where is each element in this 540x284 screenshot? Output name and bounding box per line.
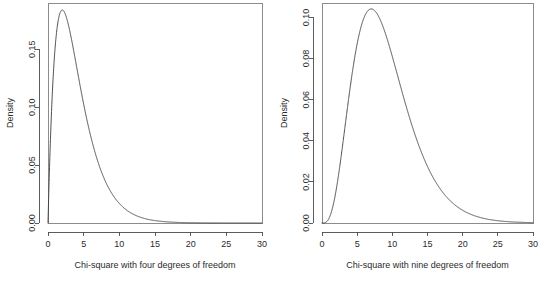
x-axis-tick-label: 0: [319, 239, 324, 249]
x-axis-tick-label: 20: [186, 239, 196, 249]
plot-area-df9: 0510152025300.000.020.040.060.080.10Chi-…: [270, 0, 540, 284]
y-axis-tick-label: 0.08: [301, 50, 311, 68]
x-axis-tick-label: 5: [355, 239, 360, 249]
panel-chi-square-df9: 0510152025300.000.020.040.060.080.10Chi-…: [270, 0, 540, 284]
x-axis-tick-label: 15: [150, 239, 160, 249]
plot-frame: [48, 3, 262, 223]
y-axis-tick-label: 0.05: [27, 156, 37, 174]
x-axis-tick-label: 30: [528, 239, 538, 249]
x-axis-tick-label: 10: [387, 239, 397, 249]
y-axis-title: Density: [279, 97, 289, 128]
plot-area-df4: 0510152025300.000.050.100.15Chi-square w…: [0, 0, 270, 284]
plot-frame: [322, 3, 533, 223]
density-curve: [322, 9, 533, 223]
panel-chi-square-df4: 0510152025300.000.050.100.15Chi-square w…: [0, 0, 270, 284]
y-axis-title: Density: [5, 97, 15, 128]
y-axis-tick-label: 0.02: [301, 173, 311, 191]
x-axis-title: Chi-square with four degrees of freedom: [74, 260, 235, 270]
x-axis-tick-label: 30: [257, 239, 267, 249]
x-axis-tick-label: 25: [221, 239, 231, 249]
x-axis-tick-label: 5: [81, 239, 86, 249]
x-axis-title: Chi-square with nine degrees of freedom: [346, 260, 509, 270]
x-axis-tick-label: 10: [114, 239, 124, 249]
x-axis-tick-label: 25: [493, 239, 503, 249]
y-axis-tick-label: 0.00: [27, 214, 37, 232]
density-curve: [48, 10, 262, 223]
y-axis-tick-label: 0.10: [301, 9, 311, 27]
y-axis-tick-label: 0.06: [301, 91, 311, 109]
y-axis-tick-label: 0.10: [27, 98, 37, 116]
x-axis-tick-label: 0: [45, 239, 50, 249]
y-axis-tick-label: 0.00: [301, 214, 311, 232]
x-axis-tick-label: 15: [422, 239, 432, 249]
x-axis-tick-label: 20: [458, 239, 468, 249]
y-axis-tick-label: 0.04: [301, 132, 311, 150]
y-axis-tick-label: 0.15: [27, 41, 37, 59]
chi-square-density-figure: 0510152025300.000.050.100.15Chi-square w…: [0, 0, 540, 284]
